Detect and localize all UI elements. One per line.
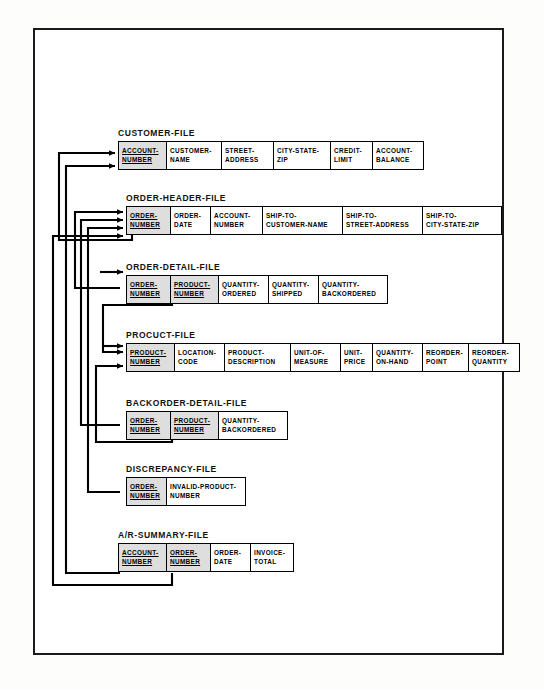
field-text-line: ORDER- — [170, 549, 207, 557]
field-customer-file-3: CITY-STATE-ZIP — [274, 142, 331, 169]
field-text-line: ACCOUNT- — [122, 549, 163, 557]
field-text-line: QUANTITY- — [376, 349, 419, 357]
field-text-line: POINT — [426, 358, 465, 366]
field-text-line: ORDER- — [174, 212, 207, 220]
field-ar-summary-file-3: INVOICE-TOTAL — [251, 544, 293, 571]
field-text-line: BACKORDERED — [322, 290, 384, 298]
field-text-line: QUANTITY- — [222, 281, 265, 289]
field-text-line: TOTAL — [254, 558, 290, 566]
field-text-line: SHIPPED — [272, 290, 315, 298]
field-text-line: INVOICE- — [254, 549, 290, 557]
field-backorder-detail-file-2: QUANTITY-BACKORDERED — [219, 412, 287, 439]
field-text-line: ACCOUNT- — [214, 212, 259, 220]
field-text-line: SHIP-TO- — [266, 212, 339, 220]
field-text-line: ACCOUNT- — [376, 147, 420, 155]
field-text-line: PRODUCT- — [174, 281, 215, 289]
field-text-line: LIMIT — [334, 156, 369, 164]
field-backorder-detail-file-0: ORDER-NUMBER — [127, 412, 171, 439]
field-product-file-2: PRODUCT-DESCRIPTION — [225, 344, 291, 371]
field-text-line: CREDIT- — [334, 147, 369, 155]
field-customer-file-0: ACCOUNT-NUMBER — [119, 142, 167, 169]
field-ar-summary-file-2: ORDER-DATE — [211, 544, 251, 571]
field-text-line: MEASURE — [294, 358, 337, 366]
field-text-line: REORDER- — [472, 349, 516, 357]
record-discrepancy-file: ORDER-NUMBERINVALID-PRODUCT-NUMBER — [126, 477, 246, 506]
field-text-line: UNIT-OF- — [294, 349, 337, 357]
field-text-line: SHIP-TO- — [426, 212, 498, 220]
record-backorder-detail-file: ORDER-NUMBERPRODUCT-NUMBERQUANTITY-BACKO… — [126, 411, 288, 440]
field-ar-summary-file-0: ACCOUNT-NUMBER — [119, 544, 167, 571]
field-order-header-file-4: SHIP-TO-STREET-ADDRESS — [343, 207, 423, 234]
field-text-line: PRODUCT- — [228, 349, 287, 357]
field-text-line: STREET-ADDRESS — [346, 221, 419, 229]
field-order-detail-file-1: PRODUCT-NUMBER — [171, 276, 219, 303]
file-label-ar-summary-file: A/R-SUMMARY-FILE — [118, 530, 294, 540]
field-text-line: NUMBER — [170, 492, 242, 500]
field-text-line: NUMBER — [122, 558, 163, 566]
field-discrepancy-file-0: ORDER-NUMBER — [127, 478, 167, 505]
file-group-order-detail-file: ORDER-DETAIL-FILE ORDER-NUMBERPRODUCT-NU… — [126, 262, 388, 304]
field-text-line: ZIP — [277, 156, 327, 164]
field-discrepancy-file-1: INVALID-PRODUCT-NUMBER — [167, 478, 245, 505]
field-customer-file-2: STREET-ADDRESS — [222, 142, 274, 169]
field-order-header-file-1: ORDER-DATE — [171, 207, 211, 234]
field-text-line: NUMBER — [130, 426, 167, 434]
field-order-detail-file-4: QUANTITY-BACKORDERED — [319, 276, 387, 303]
field-text-line: CUSTOMER-NAME — [266, 221, 339, 229]
field-text-line: NUMBER — [122, 156, 163, 164]
field-order-detail-file-3: QUANTITY-SHIPPED — [269, 276, 319, 303]
field-text-line: PRICE — [344, 358, 369, 366]
file-label-product-file: PROCUCT-FILE — [126, 330, 520, 340]
field-text-line: NUMBER — [170, 558, 207, 566]
field-text-line: QUANTITY — [472, 358, 516, 366]
field-text-line: ADDRESS — [225, 156, 270, 164]
field-backorder-detail-file-1: PRODUCT-NUMBER — [171, 412, 219, 439]
field-text-line: BACKORDERED — [222, 426, 284, 434]
record-customer-file: ACCOUNT-NUMBERCUSTOMER-NAMESTREET-ADDRES… — [118, 141, 424, 170]
field-text-line: DATE — [214, 558, 247, 566]
field-order-detail-file-2: QUANTITY-ORDERED — [219, 276, 269, 303]
field-text-line: LOCATION- — [178, 349, 221, 357]
field-text-line: CODE — [178, 358, 221, 366]
field-product-file-7: REORDER-QUANTITY — [469, 344, 519, 371]
field-text-line: ORDER- — [130, 212, 167, 220]
file-group-order-header-file: ORDER-HEADER-FILE ORDER-NUMBERORDER-DATE… — [126, 193, 502, 235]
field-product-file-1: LOCATION-CODE — [175, 344, 225, 371]
field-text-line: NUMBER — [130, 492, 163, 500]
field-text-line: QUANTITY- — [322, 281, 384, 289]
file-group-discrepancy-file: DISCREPANCY-FILE ORDER-NUMBERINVALID-PRO… — [126, 464, 246, 506]
field-text-line: INVALID-PRODUCT- — [170, 483, 242, 491]
field-text-line: CITY-STATE-ZIP — [426, 221, 498, 229]
field-text-line: ON-HAND — [376, 358, 419, 366]
field-text-line: ORDERED — [222, 290, 265, 298]
field-text-line: CITY-STATE- — [277, 147, 327, 155]
field-text-line: QUANTITY- — [222, 417, 284, 425]
record-product-file: PRODUCT-NUMBERLOCATION-CODEPRODUCT-DESCR… — [126, 343, 520, 372]
field-text-line: ORDER- — [130, 483, 163, 491]
field-order-detail-file-0: ORDER-NUMBER — [127, 276, 171, 303]
file-label-discrepancy-file: DISCREPANCY-FILE — [126, 464, 246, 474]
field-text-line: NUMBER — [174, 290, 215, 298]
field-text-line: REORDER- — [426, 349, 465, 357]
field-customer-file-4: CREDIT-LIMIT — [331, 142, 373, 169]
field-text-line: ORDER- — [130, 281, 167, 289]
field-text-line: PRODUCT- — [174, 417, 215, 425]
file-group-backorder-detail-file: BACKORDER-DETAIL-FILE ORDER-NUMBERPRODUC… — [126, 398, 288, 440]
file-label-order-header-file: ORDER-HEADER-FILE — [126, 193, 502, 203]
file-group-customer-file: CUSTOMER-FILE ACCOUNT-NUMBERCUSTOMER-NAM… — [118, 128, 424, 170]
file-label-customer-file: CUSTOMER-FILE — [118, 128, 424, 138]
field-text-line: DESCRIPTION — [228, 358, 287, 366]
field-product-file-5: QUANTITY-ON-HAND — [373, 344, 423, 371]
field-customer-file-1: CUSTOMER-NAME — [167, 142, 222, 169]
field-text-line: ORDER- — [130, 417, 167, 425]
field-text-line: STREET- — [225, 147, 270, 155]
field-product-file-4: UNIT-PRICE — [341, 344, 373, 371]
field-order-header-file-3: SHIP-TO-CUSTOMER-NAME — [263, 207, 343, 234]
field-text-line: CUSTOMER- — [170, 147, 218, 155]
field-text-line: NUMBER — [130, 358, 171, 366]
field-text-line: NUMBER — [130, 290, 167, 298]
record-order-detail-file: ORDER-NUMBERPRODUCT-NUMBERQUANTITY-ORDER… — [126, 275, 388, 304]
field-text-line: NUMBER — [214, 221, 259, 229]
field-product-file-0: PRODUCT-NUMBER — [127, 344, 175, 371]
field-text-line: QUANTITY- — [272, 281, 315, 289]
